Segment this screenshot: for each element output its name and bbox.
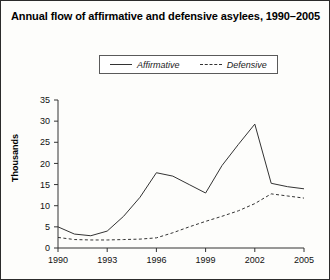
- svg-text:1999: 1999: [196, 255, 216, 265]
- series-line-affirmative: [58, 124, 304, 236]
- svg-text:5: 5: [45, 222, 50, 232]
- svg-text:30: 30: [40, 116, 50, 126]
- svg-text:2002: 2002: [245, 255, 265, 265]
- y-axis-ticks: 05101520253035: [40, 95, 58, 253]
- data-series-group: [58, 124, 304, 240]
- svg-text:2005: 2005: [294, 255, 314, 265]
- svg-text:1993: 1993: [97, 255, 117, 265]
- svg-text:35: 35: [40, 95, 50, 105]
- series-line-defensive: [58, 194, 304, 240]
- svg-text:15: 15: [40, 180, 50, 190]
- svg-text:0: 0: [45, 243, 50, 253]
- svg-text:10: 10: [40, 201, 50, 211]
- svg-text:20: 20: [40, 159, 50, 169]
- svg-text:1996: 1996: [146, 255, 166, 265]
- chart-figure: Annual flow of affirmative and defensive…: [0, 0, 330, 280]
- svg-text:1990: 1990: [48, 255, 68, 265]
- svg-text:25: 25: [40, 137, 50, 147]
- plot-area: 05101520253035 199019931996199920022005: [1, 1, 330, 280]
- x-axis-ticks: 199019931996199920022005: [48, 248, 314, 265]
